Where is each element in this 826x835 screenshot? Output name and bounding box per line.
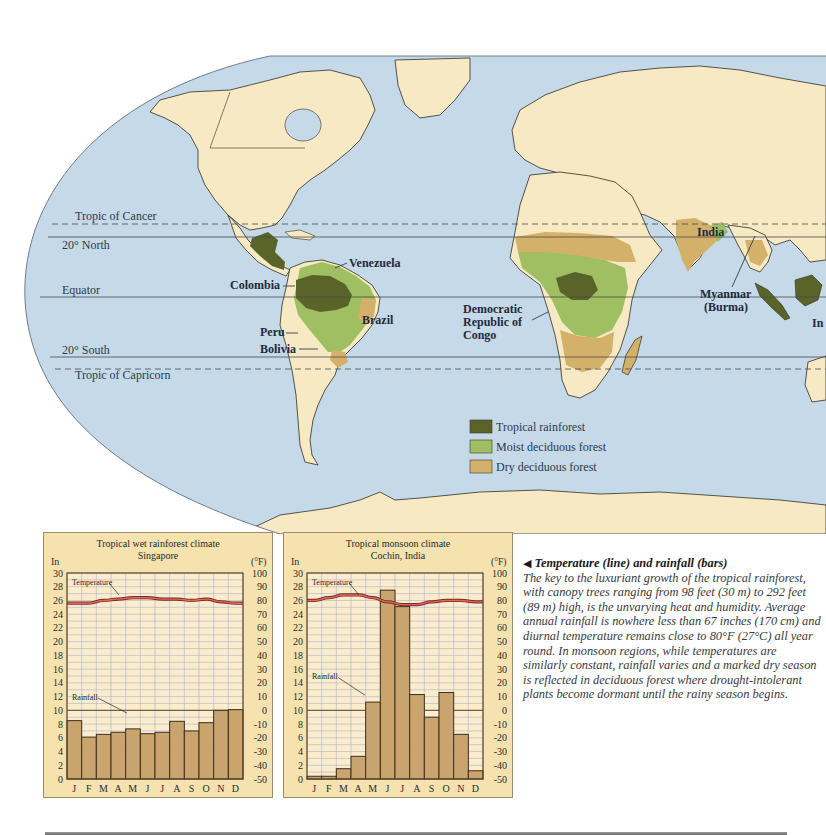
rainfall-bar [140, 734, 155, 779]
x-tick-month: M [368, 783, 377, 794]
y-tick-left: 12 [53, 691, 63, 702]
y-tick-left: 2 [58, 760, 63, 771]
rainfall-bar [395, 607, 410, 779]
y-tick-right: 40 [497, 650, 507, 661]
rainfall-bar [170, 721, 185, 779]
y-tick-left: 16 [293, 664, 303, 675]
label-drc-line3: Congo [463, 328, 496, 342]
y-tick-right: -10 [254, 719, 267, 730]
legend-swatch-rainforest [470, 420, 492, 433]
y-tick-left: 30 [53, 568, 63, 579]
y-tick-right: 40 [257, 650, 267, 661]
rainfall-bar [82, 737, 97, 779]
rainfall-bar [199, 723, 214, 779]
rainfall-bar [96, 734, 111, 779]
legend-swatch-moist [470, 440, 492, 453]
y-tick-left: 16 [53, 664, 63, 675]
x-tick-month: M [99, 783, 108, 794]
legend-label-dry: Dry deciduous forest [496, 460, 597, 474]
y-tick-right: -20 [494, 732, 507, 743]
y-tick-right: 50 [497, 636, 507, 647]
y-tick-left: 28 [293, 581, 303, 592]
y-tick-right: -20 [254, 732, 267, 743]
y-tick-left: 20 [293, 636, 303, 647]
rainfall-bar [439, 692, 454, 779]
y-tick-left: 26 [53, 595, 63, 606]
y-tick-left: 6 [58, 732, 63, 743]
rainfall-bar [380, 590, 395, 779]
y-tick-left: 28 [53, 581, 63, 592]
label-colombia: Colombia [230, 278, 280, 292]
y-tick-right: 90 [497, 581, 507, 592]
y-tick-left: 20 [53, 636, 63, 647]
label-myanmar-line1: Myanmar [700, 287, 752, 301]
label-drc-line1: Democratic [463, 302, 523, 316]
x-tick-month: M [128, 783, 137, 794]
world-forest-map: Tropic of Cancer 20° North Equator 20° S… [0, 0, 826, 534]
rainfall-bar [67, 721, 82, 779]
y-tick-right: -40 [254, 760, 267, 771]
x-tick-month: J [385, 783, 389, 794]
annotation-rainfall: Rainfall [312, 672, 339, 681]
y-tick-right: -30 [254, 746, 267, 757]
label-brazil: Brazil [362, 313, 394, 327]
y-tick-right: 100 [492, 568, 507, 579]
x-tick-month: F [326, 783, 332, 794]
y-tick-right: 80 [257, 595, 267, 606]
y-tick-left: 0 [298, 774, 303, 785]
y-tick-left: 14 [53, 677, 63, 688]
label-equator: Equator [62, 283, 100, 297]
chart-singapore: Tropical wet rainforest climateSingapore… [43, 532, 273, 798]
y-tick-left: 8 [298, 719, 303, 730]
rainfall-bar [111, 732, 126, 779]
annotation-rainfall: Rainfall [72, 693, 99, 702]
x-tick-month: N [457, 783, 465, 794]
y-tick-left: 10 [293, 705, 303, 716]
x-tick-month: S [189, 783, 195, 794]
x-tick-month: A [413, 783, 421, 794]
legend-label-rainforest: Tropical rainforest [496, 420, 586, 434]
y-tick-right: -10 [494, 719, 507, 730]
y-tick-left: 30 [293, 568, 303, 579]
rainfall-bar [454, 734, 469, 779]
label-peru: Peru [260, 325, 285, 339]
caption: ◀Temperature (line) and rainfall (bars) … [523, 556, 823, 702]
x-tick-month: J [72, 783, 76, 794]
x-tick-month: M [339, 783, 348, 794]
hudson-bay [285, 109, 321, 141]
y-tick-right: -50 [254, 774, 267, 785]
y-tick-left: 0 [58, 774, 63, 785]
caption-body: The key to the luxuriant growth of the t… [523, 571, 821, 702]
legend-swatch-dry [470, 460, 492, 473]
left-triangle-icon: ◀ [523, 557, 531, 569]
rainfall-bar [155, 732, 170, 779]
y-tick-left: 24 [293, 609, 303, 620]
rainfall-bar [468, 771, 483, 779]
y-tick-right: 10 [257, 691, 267, 702]
label-myanmar-line2: (Burma) [704, 300, 748, 314]
x-tick-month: A [173, 783, 181, 794]
x-tick-month: D [232, 783, 240, 794]
y-tick-right: 20 [257, 677, 267, 688]
y-tick-right: 70 [497, 609, 507, 620]
y-tick-left: 6 [298, 732, 303, 743]
y-axis-label-left: In [51, 556, 59, 567]
rainfall-bar [424, 717, 439, 779]
y-tick-left: 12 [293, 691, 303, 702]
y-axis-label-left: In [291, 556, 299, 567]
legend-label-moist: Moist deciduous forest [496, 440, 607, 454]
y-tick-left: 18 [293, 650, 303, 661]
y-tick-right: -40 [494, 760, 507, 771]
annotation-temperature: Temperature [312, 578, 353, 587]
x-tick-month: J [312, 783, 316, 794]
annotation-temperature: Temperature [72, 578, 113, 587]
y-tick-left: 2 [298, 760, 303, 771]
y-tick-right: 20 [497, 677, 507, 688]
y-tick-left: 10 [53, 705, 63, 716]
caption-title-row: ◀Temperature (line) and rainfall (bars) [523, 556, 823, 571]
chart-subtitle: Cochin, India [371, 550, 426, 561]
x-tick-month: A [114, 783, 122, 794]
y-tick-left: 4 [298, 746, 303, 757]
y-tick-right: 90 [257, 581, 267, 592]
y-tick-left: 18 [53, 650, 63, 661]
